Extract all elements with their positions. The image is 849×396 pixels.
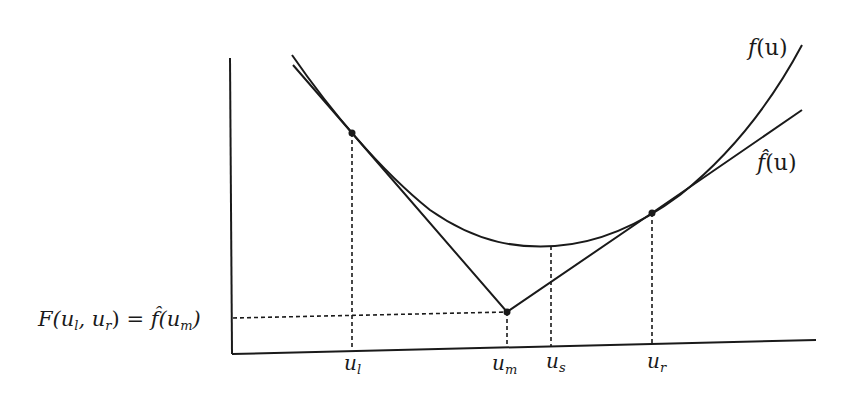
tick-u-s: us bbox=[546, 349, 566, 375]
point-u-l bbox=[349, 130, 356, 137]
diagram-canvas: f(u) f̂(u) ul um us ur F(ul, ur) = f̂(um… bbox=[0, 0, 849, 396]
tick-u-r: ur bbox=[647, 349, 667, 375]
x-axis bbox=[232, 340, 816, 354]
tick-u-m: um bbox=[492, 351, 517, 377]
tick-u-l: ul bbox=[344, 351, 361, 377]
point-u-m bbox=[504, 309, 511, 316]
point-u-r bbox=[649, 210, 656, 217]
curve-f-hat bbox=[293, 65, 802, 312]
dashed-f-hat-um bbox=[233, 312, 507, 318]
label-f-hat: f̂(u) bbox=[755, 149, 797, 175]
curve-f bbox=[292, 45, 802, 246]
label-F-equals-fhat-um: F(ul, ur) = f̂(um) bbox=[37, 306, 201, 333]
y-axis bbox=[230, 58, 232, 354]
label-f: f(u) bbox=[746, 35, 788, 60]
